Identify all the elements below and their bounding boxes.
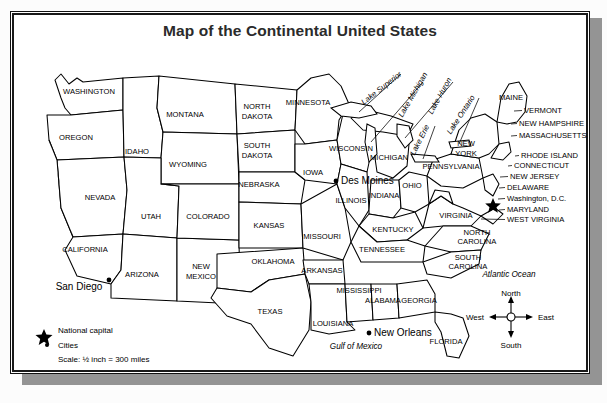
state-shape-idaho <box>123 76 163 158</box>
city-label-des-moines: Des Moines <box>341 175 394 186</box>
state-shape-wyoming <box>161 132 239 184</box>
map-legend: National capital Cities Scale: ½ inch = … <box>36 326 150 364</box>
state-label-alabama: ALABAMA <box>365 296 402 305</box>
legend-cities-label: Cities <box>58 341 78 350</box>
state-label-south: SOUTH <box>455 253 482 262</box>
legend-capital-label: National capital <box>58 326 113 335</box>
compass-east-label: East <box>538 313 555 322</box>
state-label-kentucky: KENTUCKY <box>372 225 413 234</box>
state-label-maryland: MARYLAND <box>507 205 550 214</box>
state-label-oklahoma: OKLAHOMA <box>251 257 295 266</box>
state-label-north: NORTH <box>464 228 491 237</box>
compass-south-label: South <box>501 341 522 350</box>
state-label-delaware: DELAWARE <box>507 183 549 192</box>
state-label-louisiana: LOUISIANA <box>313 319 354 328</box>
compass-center-circle <box>507 313 515 321</box>
state-label-california: CALIFORNIA <box>62 245 109 254</box>
state-shape-montana <box>157 76 237 134</box>
state-label-maine: MAINE <box>499 93 523 102</box>
state-label-idaho: IDAHO <box>125 147 149 156</box>
state-label-missouri: MISSOURI <box>303 232 341 241</box>
state-label-arkansas: ARKANSAS <box>301 266 342 275</box>
city-marker-san-diego <box>107 278 112 283</box>
state-label-massachusetts: MASSACHUSETTS <box>519 131 587 140</box>
state-label-utah: UTAH <box>141 212 161 221</box>
state-label-pennsylvania: PENNSYLVANIA <box>422 162 480 171</box>
map-frame: Map of the Continental United States <box>10 11 590 374</box>
state-label-nebraska: NEBRASKA <box>238 180 280 189</box>
lake-label-lake-superior: Lake Superior <box>360 69 404 106</box>
state-label-new: NEW <box>457 139 476 148</box>
state-label-west-virginia: WEST VIRGINIA <box>507 215 565 224</box>
map-canvas[interactable]: Lake SuperiorLake MichiganLake HuronLake… <box>11 12 589 373</box>
state-label-oregon: OREGON <box>59 133 93 142</box>
state-label-ohio: OHIO <box>402 181 422 190</box>
water-label-gulf-of-mexico: Gulf of Mexico <box>330 342 383 351</box>
state-shape-ohio <box>399 172 429 212</box>
state-label-indiana: INDIANA <box>369 191 401 200</box>
state-label-washington-d-c: Washington, D.C. <box>507 194 566 203</box>
state-label-dakota: DAKOTA <box>242 151 274 160</box>
state-label-wisconsin: WISCONSIN <box>329 144 373 153</box>
state-label-dakota: DAKOTA <box>242 112 274 121</box>
state-label-arizona: ARIZONA <box>125 270 160 279</box>
state-label-mexico: MEXICO <box>186 272 216 281</box>
state-label-georgia: GEORGIA <box>401 296 437 305</box>
state-label-south: SOUTH <box>244 141 271 150</box>
state-shape-new-jersey-delaware <box>483 174 499 196</box>
city-marker-new-orleans <box>367 331 372 336</box>
state-label-york: YORK <box>455 149 477 158</box>
page-background: Map of the Continental United States <box>0 0 607 403</box>
legend-scale-label: Scale: ½ inch = 300 miles <box>58 355 149 364</box>
legend-dot-icon <box>45 343 49 347</box>
state-label-nevada: NEVADA <box>85 193 117 202</box>
legend-star-icon <box>36 329 53 345</box>
water-label-atlantic-ocean: Atlantic Ocean <box>481 270 536 279</box>
state-label-mississippi: MISSISSIPPI <box>336 286 381 295</box>
leader-line-maryland <box>499 210 505 211</box>
leader-line-washington-d-c <box>498 199 505 200</box>
state-label-minnesota: MINNESOTA <box>286 98 332 107</box>
state-label-virginia: VIRGINIA <box>439 211 473 220</box>
compass-east-arrow <box>526 314 533 320</box>
leader-line-massachusetts <box>511 136 517 137</box>
leader-line-rhode-island <box>515 156 519 157</box>
state-label-michigan: MICHIGAN <box>370 153 408 162</box>
state-label-new-jersey: NEW JERSEY <box>510 172 559 181</box>
state-label-vermont: VERMONT <box>524 106 562 115</box>
us-map-svg[interactable]: Lake SuperiorLake MichiganLake HuronLake… <box>11 12 589 373</box>
leader-line-new-hampshire <box>511 124 517 125</box>
state-label-florida: FLORIDA <box>430 337 464 346</box>
compass-west-arrow <box>489 314 496 320</box>
state-label-wyoming: WYOMING <box>169 160 207 169</box>
state-label-iowa: IOWA <box>303 168 324 177</box>
state-label-tennessee: TENNESSEE <box>359 245 405 254</box>
state-label-montana: MONTANA <box>166 110 204 119</box>
state-shape-maine <box>497 82 527 124</box>
city-label-new-orleans: New Orleans <box>374 327 432 338</box>
city-label-san-diego: San Diego <box>56 281 103 292</box>
state-label-washington: WASHINGTON <box>63 87 115 96</box>
lake-label-lake-huron: Lake Huron <box>426 76 453 116</box>
state-label-new-hampshire: NEW HAMPSHIRE <box>519 119 584 128</box>
leader-line-vermont <box>514 111 522 112</box>
state-label-kansas: KANSAS <box>254 221 285 230</box>
city-marker-des-moines <box>334 179 339 184</box>
state-label-rhode-island: RHODE ISLAND <box>521 151 578 160</box>
compass-south-arrow <box>508 331 514 338</box>
compass-west-label: West <box>466 313 485 322</box>
leader-line-connecticut <box>508 166 512 167</box>
leader-line-west-virginia <box>481 219 505 220</box>
state-label-texas: TEXAS <box>258 307 283 316</box>
state-label-carolina: CAROLINA <box>458 237 498 246</box>
state-label-illinois: ILLINOIS <box>335 196 366 205</box>
state-label-new: NEW <box>192 262 211 271</box>
compass-rose: North South East West <box>466 289 555 350</box>
state-label-connecticut: CONNECTICUT <box>514 161 570 170</box>
state-label-north: NORTH <box>244 102 271 111</box>
compass-north-label: North <box>501 289 521 298</box>
state-shape-florida <box>435 312 469 358</box>
leader-line-new-jersey <box>500 177 508 178</box>
state-label-colorado: COLORADO <box>186 212 230 221</box>
leader-line-delaware <box>499 188 505 189</box>
